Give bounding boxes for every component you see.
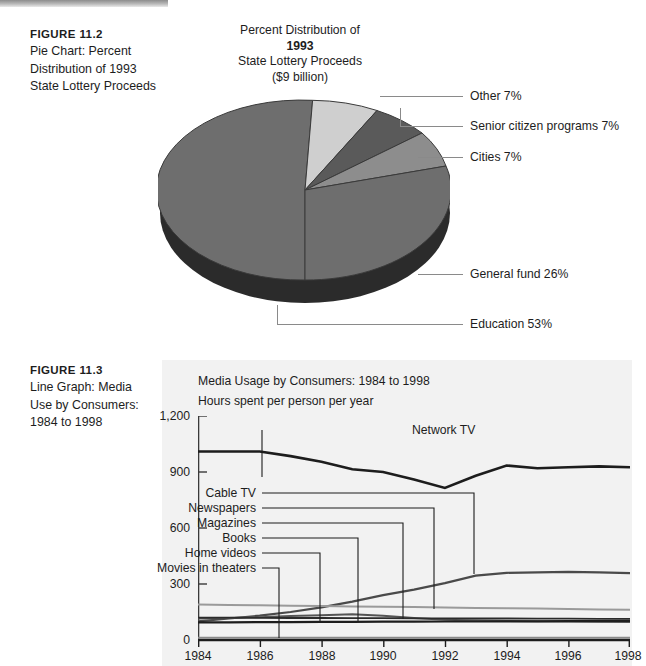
series-label-movies-in-theaters: Movies in theaters	[120, 561, 256, 575]
figure-11-2-caption: FIGURE 11.2 Pie Chart: Percent Distribut…	[30, 26, 180, 96]
series-line-books	[198, 621, 630, 622]
figure-11-2-number: FIGURE 11.2	[30, 26, 180, 43]
series-label-home-videos: Home videos	[140, 546, 256, 560]
pie-chart-title: Percent Distribution of 1993 State Lotte…	[205, 23, 395, 85]
x-tick-label-1996: 1996	[540, 649, 596, 663]
line-chart-subtitle: Hours spent per person per year	[198, 394, 373, 408]
figure-11-2-caption-line-2: Distribution of 1993	[30, 61, 180, 79]
y-tick-label-1200: 1,200	[132, 409, 190, 423]
pie-chart-svg	[158, 88, 450, 313]
x-tick-label-1994: 1994	[479, 649, 535, 663]
figure-11-2-caption-line-1: Pie Chart: Percent	[30, 43, 180, 61]
x-tick-label-1984: 1984	[170, 649, 226, 663]
x-tick-label-1992: 1992	[417, 649, 473, 663]
pie-title-line-1: Percent Distribution of	[205, 23, 395, 39]
leader-line-education	[277, 324, 463, 325]
series-label-cable-tv: Cable TV	[180, 486, 256, 500]
leader-line-senior-vertical	[400, 108, 401, 127]
leader-line-general-fund	[418, 274, 463, 275]
figure-11-3: FIGURE 11.3 Line Graph: Media Use by Con…	[0, 352, 632, 666]
series-label-network-tv: Network TV	[412, 423, 475, 437]
leader-line-other	[380, 96, 463, 97]
figure-11-2: FIGURE 11.2 Pie Chart: Percent Distribut…	[0, 0, 632, 350]
series-label-books: Books	[160, 531, 256, 545]
leader-line-education-vertical	[277, 305, 278, 325]
pie-label-other: Other 7%	[470, 89, 521, 103]
series-line-newspapers	[198, 605, 630, 610]
pie-title-year: 1993	[286, 39, 313, 53]
leader-line-cities	[418, 157, 463, 158]
series-line-network-tv	[198, 452, 630, 488]
pie-title-line-4: ($9 billion)	[205, 70, 395, 86]
series-label-newspapers: Newspapers	[160, 501, 256, 515]
x-tick-label-1998: 1998	[600, 649, 646, 663]
series-label-magazines: Magazines	[160, 516, 256, 530]
figure-11-3-caption-line-1: Line Graph: Media	[30, 379, 180, 397]
y-tick-label-300: 300	[132, 577, 190, 591]
line-chart-plot	[198, 416, 630, 640]
leader-movies-in-theaters	[262, 568, 279, 638]
line-chart-svg	[198, 416, 630, 648]
pie-chart	[158, 88, 450, 313]
pie-label-senior: Senior citizen programs 7%	[470, 119, 619, 133]
series-line-magazines	[198, 618, 630, 619]
line-chart-title: Media Usage by Consumers: 1984 to 1998	[198, 374, 430, 388]
leader-line-senior	[400, 126, 463, 127]
x-tick-label-1988: 1988	[294, 649, 350, 663]
y-tick-label-0: 0	[132, 633, 190, 647]
pie-label-general-fund: General fund 26%	[470, 267, 568, 281]
x-tick-label-1986: 1986	[232, 649, 288, 663]
pie-label-education: Education 53%	[470, 317, 552, 331]
pie-label-cities: Cities 7%	[470, 150, 521, 164]
x-tick-label-1990: 1990	[355, 649, 411, 663]
y-tick-label-900: 900	[132, 465, 190, 479]
pie-title-line-3: State Lottery Proceeds	[205, 54, 395, 70]
series-line-cable-tv	[198, 572, 630, 622]
figure-11-3-number: FIGURE 11.3	[30, 362, 180, 379]
leader-cable-tv	[262, 493, 474, 574]
